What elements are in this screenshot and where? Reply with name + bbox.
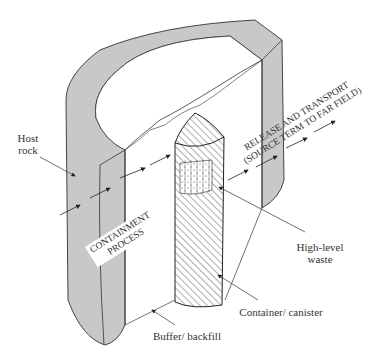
host-rock-label-line1: Host (10, 132, 46, 144)
canister-leader (218, 275, 258, 300)
host-rock-label-line2: rock (10, 144, 46, 156)
buffer-backfill-label: Buffer/ backfill (152, 330, 222, 342)
host-rock-label: Host rock (10, 132, 46, 156)
waste-label-line1: High-level (290, 241, 350, 253)
repository-diagram (0, 0, 375, 357)
waste-label-line2: waste (290, 253, 350, 265)
high-level-waste-label: High-level waste (290, 241, 350, 265)
container-canister-label: Container/ canister (236, 306, 326, 318)
buffer-leader (152, 310, 175, 325)
canister (175, 113, 224, 307)
